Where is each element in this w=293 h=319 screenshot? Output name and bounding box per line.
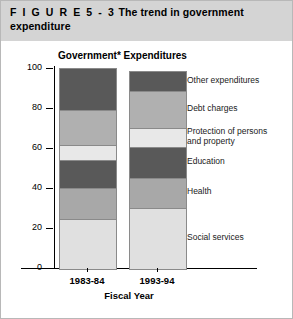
x-axis-tick-label: 1993-94 <box>117 275 197 286</box>
bar-segment-protection-of-persons-and-property <box>60 145 116 160</box>
y-axis-tick <box>46 148 53 149</box>
bar-1983-84 <box>59 68 117 270</box>
bar-segment-health <box>130 178 186 208</box>
x-axis-tick <box>87 268 88 272</box>
legend-label: Protection of persons and property <box>187 126 267 146</box>
bar-segment-other-expenditures <box>60 69 116 110</box>
y-axis-tick <box>46 268 53 269</box>
legend-label: Social services <box>187 232 244 242</box>
plot-area: 0204060801001983-841993-94Fiscal YearOth… <box>1 41 293 319</box>
chart-body: Government* Expenditures 020406080100198… <box>1 41 293 319</box>
legend-label: Education <box>187 156 225 166</box>
y-axis-tick <box>46 228 53 229</box>
bar-segment-social-services <box>130 208 186 269</box>
bar-segment-debt-charges <box>60 110 116 145</box>
figure-number: F I G U R E 5 - 3 <box>10 6 115 18</box>
bar-segment-other-expenditures <box>130 72 186 91</box>
y-axis-tick-label: 20 <box>32 222 42 232</box>
bar-segment-protection-of-persons-and-property <box>130 128 186 147</box>
y-axis-tick-label: 100 <box>27 62 42 72</box>
y-axis-line <box>54 66 55 269</box>
legend-label: Health <box>187 186 212 196</box>
y-axis-tick <box>46 68 53 69</box>
bar-segment-education <box>130 147 186 178</box>
x-axis-title: Fiscal Year <box>54 290 204 301</box>
bar-segment-health <box>60 188 116 219</box>
y-axis-tick <box>46 108 53 109</box>
y-axis-tick-label: 40 <box>32 182 42 192</box>
figure-title: F I G U R E 5 - 3 The trend in governmen… <box>10 6 286 33</box>
legend-label: Debt charges <box>187 103 238 113</box>
bar-1993-94 <box>129 71 187 270</box>
bar-segment-debt-charges <box>130 91 186 128</box>
x-axis-tick <box>157 268 158 272</box>
y-axis-tick-label: 0 <box>37 262 42 272</box>
bar-segment-social-services <box>60 219 116 269</box>
y-axis-tick-label: 80 <box>32 102 42 112</box>
legend-label: Other expenditures <box>187 75 259 85</box>
bar-segment-education <box>60 160 116 188</box>
y-axis-tick-label: 60 <box>32 142 42 152</box>
figure-container: F I G U R E 5 - 3 The trend in governmen… <box>0 0 293 319</box>
figure-title-bar: F I G U R E 5 - 3 The trend in governmen… <box>1 1 293 41</box>
y-axis-tick <box>46 188 53 189</box>
x-axis-tick-label: 1983-84 <box>47 275 127 286</box>
